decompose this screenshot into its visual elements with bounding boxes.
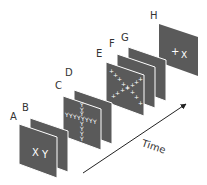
label-h: H	[150, 10, 158, 21]
stimulus-x: X	[181, 50, 187, 60]
label-a: A	[10, 111, 17, 122]
stimulus-y: Y	[41, 149, 49, 160]
svg-text:Y: Y	[92, 118, 97, 125]
svg-text:Y: Y	[79, 110, 84, 117]
stimulus-plus: +	[171, 46, 179, 57]
svg-text:+: +	[130, 81, 135, 88]
label-e: E	[96, 48, 102, 59]
svg-text:Y: Y	[79, 135, 84, 142]
time-sequence-diagram: + X H G F + + + + + + + + + + + + + + +	[0, 0, 207, 185]
label-c: C	[55, 80, 62, 91]
time-label: Time	[139, 137, 167, 155]
stimulus-x: X	[32, 147, 39, 158]
svg-text:+: +	[111, 92, 116, 99]
svg-text:+: +	[138, 99, 143, 106]
label-d: D	[65, 67, 73, 78]
label-b: B	[22, 102, 29, 113]
label-g: G	[121, 32, 129, 43]
label-f: F	[109, 38, 115, 49]
svg-text:+: +	[125, 83, 130, 90]
svg-text:+: +	[120, 86, 125, 93]
